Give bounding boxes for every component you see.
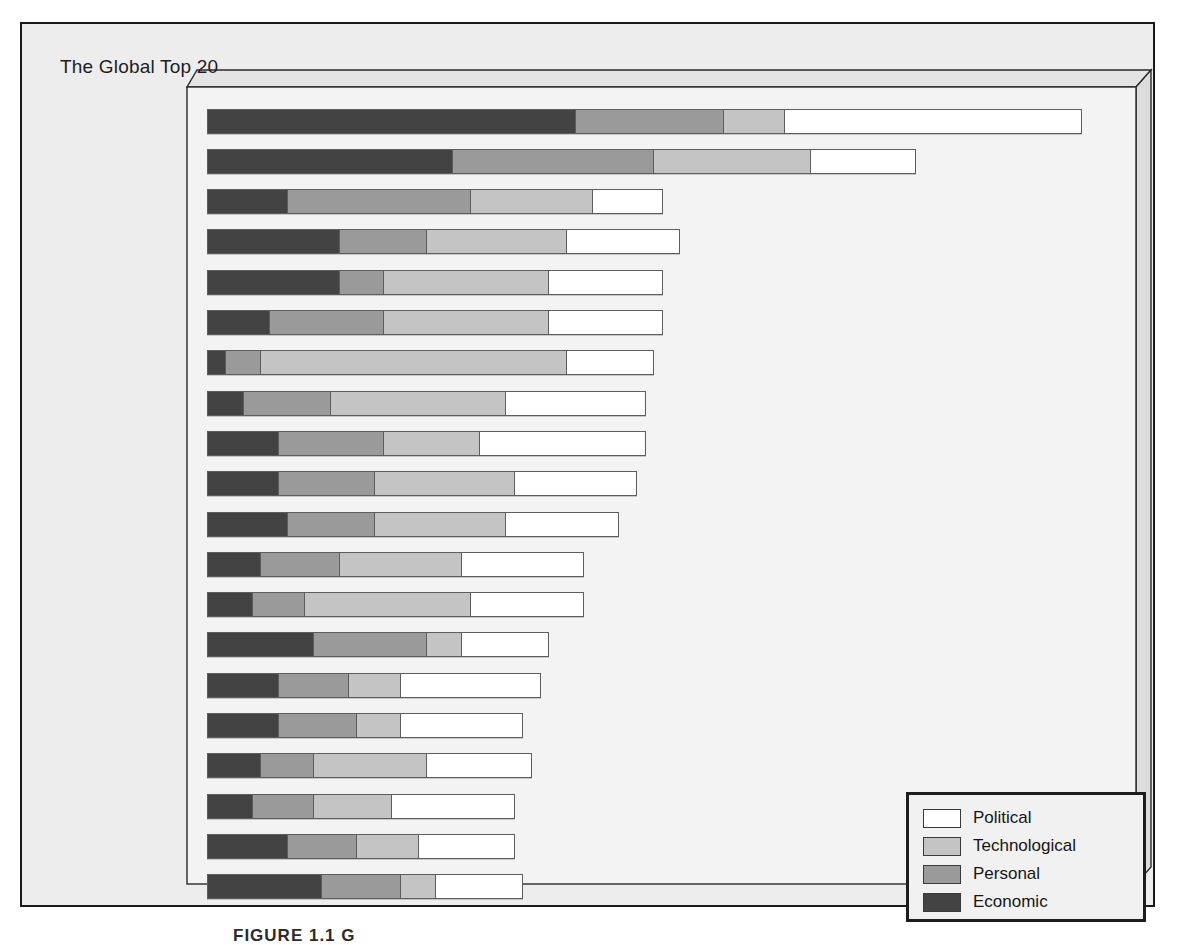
stacked-bar[interactable]: [207, 229, 680, 254]
bar-segment-technological: [383, 271, 549, 294]
bar-segment-personal: [243, 392, 330, 415]
stacked-bar[interactable]: [207, 471, 637, 496]
bar-segment-economic: [208, 271, 339, 294]
bar-segment-political: [505, 513, 618, 536]
bar-segment-economic: [208, 633, 313, 656]
bar-segment-technological: [356, 714, 400, 737]
bar-segment-personal: [575, 110, 723, 133]
stacked-bar[interactable]: [207, 552, 584, 577]
stacked-bar[interactable]: [207, 350, 654, 375]
stacked-bar[interactable]: [207, 713, 523, 738]
bar-segment-technological: [374, 513, 505, 536]
bar-segment-economic: [208, 190, 287, 213]
stacked-bar[interactable]: [207, 874, 523, 899]
stacked-bar[interactable]: [207, 109, 1082, 134]
bar-segment-political: [810, 150, 915, 173]
stacked-bar[interactable]: [207, 834, 515, 859]
bar-segment-personal: [287, 190, 470, 213]
bar-segment-personal: [321, 875, 400, 898]
bar-segment-personal: [313, 633, 426, 656]
stacked-bar[interactable]: [207, 310, 663, 335]
bar-segment-political: [548, 311, 661, 334]
legend-label-economic: Economic: [973, 892, 1048, 912]
stacked-bar[interactable]: [207, 270, 663, 295]
stacked-bar[interactable]: [207, 149, 916, 174]
legend-swatch-political: [923, 809, 961, 828]
stacked-bar[interactable]: [207, 592, 584, 617]
bar-segment-economic: [208, 311, 269, 334]
stacked-bar[interactable]: [207, 794, 515, 819]
bar-segment-political: [479, 432, 645, 455]
bar-segment-technological: [653, 150, 810, 173]
bar-rows: IrelandSingaporeSwitzerlandNetherlandsFi…: [22, 24, 1157, 909]
bar-segment-personal: [339, 230, 426, 253]
bar-segment-political: [426, 754, 531, 777]
bar-segment-personal: [278, 714, 357, 737]
bar-segment-technological: [426, 230, 566, 253]
bar-segment-economic: [208, 150, 452, 173]
bar-segment-economic: [208, 835, 287, 858]
bar-segment-technological: [374, 472, 514, 495]
bar-segment-political: [566, 351, 653, 374]
legend-label-technological: Technological: [973, 836, 1076, 856]
bar-segment-personal: [278, 472, 374, 495]
legend-label-political: Political: [973, 808, 1032, 828]
bar-segment-personal: [278, 674, 348, 697]
bar-segment-personal: [339, 271, 383, 294]
bar-segment-political: [514, 472, 636, 495]
bar-segment-economic: [208, 513, 287, 536]
bar-segment-personal: [252, 593, 304, 616]
bar-segment-political: [418, 835, 514, 858]
bar-segment-political: [566, 230, 679, 253]
bar-segment-political: [400, 674, 540, 697]
bar-segment-technological: [339, 553, 461, 576]
bar-segment-technological: [426, 633, 461, 656]
bar-segment-economic: [208, 230, 339, 253]
bar-segment-economic: [208, 553, 260, 576]
stacked-bar[interactable]: [207, 391, 646, 416]
bar-segment-economic: [208, 351, 225, 374]
bar-segment-technological: [356, 835, 417, 858]
stacked-bar[interactable]: [207, 753, 532, 778]
bar-segment-technological: [313, 754, 426, 777]
bar-segment-technological: [723, 110, 784, 133]
stacked-bar[interactable]: [207, 632, 549, 657]
bar-segment-technological: [348, 674, 400, 697]
bar-segment-political: [400, 714, 522, 737]
bar-segment-political: [435, 875, 522, 898]
stacked-bar[interactable]: [207, 431, 646, 456]
bar-segment-personal: [287, 513, 374, 536]
bar-segment-political: [505, 392, 645, 415]
bar-segment-economic: [208, 472, 278, 495]
bar-segment-economic: [208, 392, 243, 415]
bar-segment-personal: [287, 835, 357, 858]
bar-segment-political: [784, 110, 1081, 133]
bar-segment-political: [461, 633, 548, 656]
bar-segment-economic: [208, 795, 252, 818]
bar-segment-political: [470, 593, 583, 616]
bar-segment-economic: [208, 714, 278, 737]
chart-screenshot: The Global Top 20 IrelandSingaporeSwitze…: [0, 0, 1179, 945]
stacked-bar[interactable]: [207, 673, 541, 698]
legend-item-political: Political: [923, 804, 1143, 832]
bar-segment-political: [461, 553, 583, 576]
legend-swatch-technological: [923, 837, 961, 856]
legend-item-economic: Economic: [923, 888, 1143, 916]
bar-segment-economic: [208, 674, 278, 697]
bar-segment-technological: [383, 311, 549, 334]
bar-segment-economic: [208, 593, 252, 616]
bar-segment-personal: [225, 351, 260, 374]
stacked-bar[interactable]: [207, 189, 663, 214]
legend-swatch-economic: [923, 893, 961, 912]
bar-segment-economic: [208, 110, 575, 133]
bar-segment-political: [391, 795, 513, 818]
bar-segment-technological: [304, 593, 470, 616]
figure-caption: FIGURE 1.1 G: [233, 926, 356, 942]
bar-segment-personal: [452, 150, 653, 173]
bar-segment-personal: [269, 311, 382, 334]
stacked-bar[interactable]: [207, 512, 619, 537]
figure-panel: The Global Top 20 IrelandSingaporeSwitze…: [20, 22, 1155, 907]
legend-item-technological: Technological: [923, 832, 1143, 860]
bar-segment-economic: [208, 754, 260, 777]
bar-segment-technological: [330, 392, 505, 415]
